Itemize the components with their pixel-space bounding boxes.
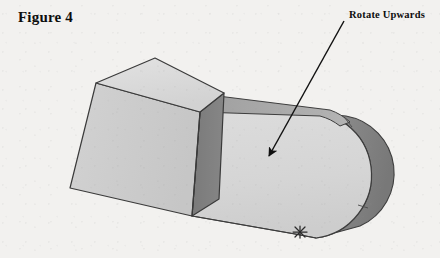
- asterisk-mark: [293, 226, 307, 238]
- rotate-upwards-label: Rotate Upwards: [349, 9, 425, 20]
- technical-drawing: [0, 0, 440, 258]
- figure-caption: Figure 4: [18, 9, 73, 26]
- figure-page: Figure 4 Rotate Upwards: [0, 0, 440, 258]
- solid-body: [70, 58, 394, 238]
